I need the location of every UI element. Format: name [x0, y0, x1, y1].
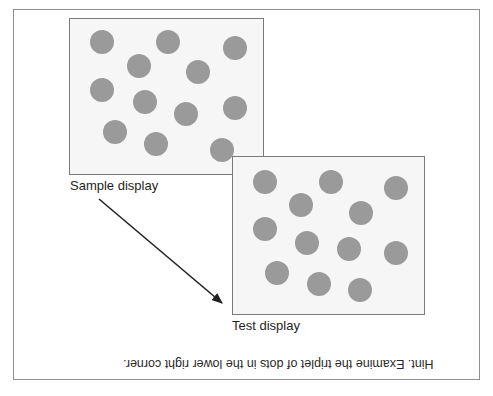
sample-dot — [210, 138, 234, 162]
sample-dot — [223, 36, 247, 60]
sample-dot — [223, 96, 247, 120]
sample-dot — [174, 102, 198, 126]
test-dot — [253, 217, 277, 241]
sample-dot — [127, 54, 151, 78]
sample-dot — [103, 120, 127, 144]
sample-dot — [133, 90, 157, 114]
test-dot — [384, 241, 408, 265]
sample-display-label: Sample display — [70, 178, 158, 193]
test-display-label: Test display — [232, 318, 300, 333]
sample-dot — [156, 30, 180, 54]
test-dot — [349, 201, 373, 225]
test-dot — [265, 261, 289, 285]
test-dot — [289, 193, 313, 217]
sample-dot — [186, 60, 210, 84]
sample-dot — [90, 30, 114, 54]
test-dot — [253, 170, 277, 194]
test-dot — [319, 170, 343, 194]
sample-dot — [90, 78, 114, 102]
test-dot — [307, 272, 331, 296]
test-dot — [337, 237, 361, 261]
test-dot — [295, 231, 319, 255]
test-dot — [384, 176, 408, 200]
test-dot — [348, 278, 372, 302]
hint-caption: Hint. Examine the triplet of dots in the… — [123, 357, 434, 371]
sample-dot — [144, 132, 168, 156]
